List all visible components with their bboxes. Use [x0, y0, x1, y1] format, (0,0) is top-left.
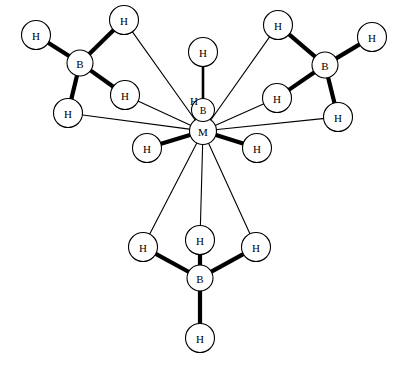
bond-M-HL4	[81, 115, 191, 130]
atom-hr2: H	[358, 23, 387, 52]
atom-circle-hc1	[189, 38, 218, 67]
atom-circle-bc	[192, 99, 215, 122]
atom-hml: H	[133, 134, 162, 163]
atom-layer: MBHHHHBHHHHBHHHHBHHHH	[22, 6, 387, 353]
atom-hmr: H	[243, 134, 272, 163]
atom-hb3: H	[242, 233, 271, 262]
atom-circle-hl3	[111, 81, 140, 110]
atom-circle-hr4	[324, 103, 353, 132]
atom-bl: B	[67, 50, 93, 76]
atom-circle-hb3	[242, 233, 271, 262]
structure-svg: MBHHHHBHHHHBHHHHBHHHH	[0, 0, 408, 366]
bond-M-HR4	[215, 118, 325, 129]
atom-circle-hl2	[110, 6, 139, 35]
atom-circle-hr3	[263, 84, 292, 113]
atom-hb2: H	[129, 233, 158, 262]
atom-hl1: H	[22, 21, 51, 50]
atom-bb: B	[187, 265, 213, 291]
molecular-diagram-canvas: MBHHHHBHHHHBHHHHBHHHH	[0, 0, 408, 366]
atom-hr4: H	[324, 103, 353, 132]
atom-circle-hl1	[22, 21, 51, 50]
atom-circle-hb4	[186, 324, 215, 353]
atom-bc: B	[192, 99, 215, 122]
atom-hl3: H	[111, 81, 140, 110]
atom-circle-hb1	[186, 226, 215, 255]
bond-BB-HB3	[210, 253, 245, 272]
atom-hc1: H	[189, 38, 218, 67]
bond-M-HR3	[214, 103, 265, 126]
bond-BL-HL2	[88, 29, 114, 55]
bond-BL-HL1	[47, 42, 70, 57]
bond-BB-HB2	[154, 253, 189, 272]
bond-BL-HL4	[71, 74, 77, 100]
atom-circle-hml	[133, 134, 162, 163]
bond-BR-HR1	[288, 33, 316, 57]
bond-M-HL2	[132, 31, 197, 122]
atom-circle-hb2	[129, 233, 158, 262]
bond-BR-HR3	[288, 72, 316, 91]
atom-circle-hr2	[358, 23, 387, 52]
atom-hb4: H	[186, 324, 215, 353]
atom-hb1: H	[186, 226, 215, 255]
bond-M-HmR	[214, 135, 244, 145]
bond-M-HmL	[159, 134, 191, 144]
atom-circle-br	[312, 52, 338, 78]
atom-circle-hr1	[264, 11, 293, 40]
atom-circle-hmr	[243, 134, 272, 163]
atom-hl4: H	[54, 99, 83, 128]
bond-M-HB1	[200, 143, 202, 227]
bond-BL-HL3	[89, 70, 114, 88]
atom-circle-bb	[187, 265, 213, 291]
bond-BR-HR4	[328, 76, 335, 104]
bond-BR-HR2	[335, 44, 361, 59]
atom-hl2: H	[110, 6, 139, 35]
atom-br: B	[312, 52, 338, 78]
atom-hr3: H	[263, 84, 292, 113]
bond-M-HR1	[210, 36, 271, 122]
atom-circle-bl	[67, 50, 93, 76]
atom-circle-hl4	[54, 99, 83, 128]
atom-hr1: H	[264, 11, 293, 40]
